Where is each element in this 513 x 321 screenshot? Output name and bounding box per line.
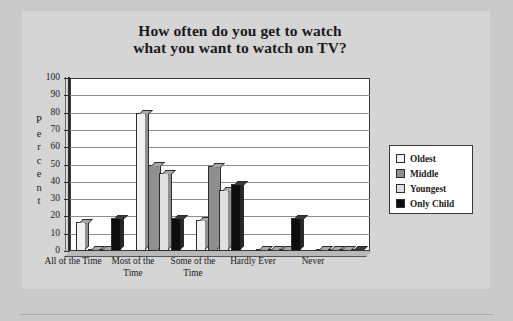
bar[interactable] [208,166,218,251]
bar[interactable] [219,190,229,251]
bar-top-face [354,246,368,250]
legend-label: Oldest [410,154,436,164]
legend-label: Youngest [410,184,446,194]
bar-top-face [234,181,248,185]
bar-top-face [79,219,93,223]
y-tick-label-30: 30 [34,193,60,203]
bar-group [70,78,130,251]
bar[interactable] [136,113,146,251]
y-tick-label-90: 90 [34,89,60,99]
legend-swatch [396,154,405,163]
y-tick-label-80: 80 [34,107,60,117]
legend-swatch [396,184,405,193]
y-tick-label-100: 100 [34,72,60,82]
legend-item[interactable]: Oldest [396,151,472,166]
chart-legend: OldestMiddleYoungestOnly Child [389,145,473,214]
bar-top-face [174,215,188,219]
bar-side-face [85,219,89,250]
bar-top-face [162,170,176,174]
y-tick-label-10: 10 [34,228,60,238]
x-axis-label: Never [276,256,350,268]
y-tick-label-20: 20 [34,210,60,220]
bar-top-face [139,110,153,114]
bar-side-face [240,181,244,250]
bar-top-face [151,162,165,166]
bar-side-face [300,215,304,250]
bar[interactable] [231,184,241,251]
bar-group [190,78,250,251]
bar-top-face [114,215,128,219]
bar[interactable] [76,222,86,251]
y-tick-label-0: 0 [34,245,60,255]
bar-group [250,78,310,251]
legend-item[interactable]: Middle [396,166,472,181]
bar-side-face [180,215,184,250]
bar[interactable] [291,218,301,251]
legend-swatch [396,169,405,178]
y-tick-label-50: 50 [34,159,60,169]
legend-item[interactable]: Youngest [396,181,472,196]
plot-area [70,78,370,251]
bar[interactable] [148,165,158,252]
bar-side-face [120,215,124,250]
legend-swatch [396,199,405,208]
chart-page: How often do you get to watch what you w… [0,0,513,321]
legend-label: Only Child [410,199,454,209]
page-divider [20,314,493,315]
x-axis-labels: All of the TimeMost of theTimeSome of th… [64,256,380,286]
bar-series-container [70,78,370,251]
chart-title-line-2: what you want to watch on TV? [85,39,395,56]
bar[interactable] [111,218,121,251]
chart-title-line-1: How often do you get to watch [85,22,395,39]
bar[interactable] [171,218,181,251]
bar-top-face [294,215,308,219]
bar-top-face [211,163,225,167]
legend-item[interactable]: Only Child [396,196,472,211]
bar[interactable] [196,220,206,251]
chart-title: How often do you get to watch what you w… [85,22,395,56]
y-tick-label-60: 60 [34,141,60,151]
bar-group [130,78,190,251]
y-tick-label-40: 40 [34,176,60,186]
y-tick-label-70: 70 [34,124,60,134]
bar-group [310,78,370,251]
legend-label: Middle [410,169,438,179]
bar[interactable] [159,173,169,251]
